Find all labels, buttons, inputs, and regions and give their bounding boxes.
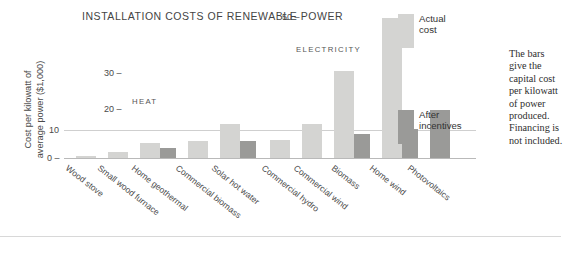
- y-tick-right-50-dash: –: [292, 12, 300, 22]
- legend-swatch-actual-cost: [398, 14, 414, 48]
- x-label-photovoltaics: Photovoltaics: [406, 163, 452, 202]
- x-label-home-wind: Home wind: [368, 163, 408, 197]
- x-label-commercial-hydro: Commercial hydro: [260, 163, 321, 214]
- bar-solar-hot-water-actual: [220, 124, 240, 158]
- legend-label-actual-cost-line1: Actual: [419, 13, 467, 24]
- y-tick-right-20-value: 20: [104, 104, 114, 114]
- legend-swatch-after-incentives: [398, 110, 414, 144]
- legend-label-after-incentives: After incentives: [419, 109, 467, 132]
- y-tick-left-0-dash: –: [52, 153, 59, 163]
- section-label-heat: HEAT: [132, 97, 157, 106]
- y-tick-right-50: 50 –: [282, 12, 300, 22]
- bottom-divider: [0, 236, 561, 237]
- y-axis-label-line1: Cost per kilowatt of: [23, 56, 35, 164]
- y-tick-right-50-value: 50: [282, 12, 292, 22]
- y-tick-right-20: 20 –: [104, 104, 122, 114]
- bar-solar-hot-water-after: [240, 141, 256, 158]
- y-tick-left-10-value: 10: [49, 125, 59, 135]
- bar-small-wood-furnace-actual: [108, 152, 128, 158]
- y-tick-left-10: 10: [49, 125, 59, 135]
- legend-label-actual-cost: Actual cost: [419, 13, 467, 36]
- bar-biomass-after: [354, 134, 370, 158]
- x-label-biomass: Biomass: [330, 163, 362, 191]
- bar-wood-stove-actual: [76, 156, 96, 158]
- axis-baseline: [64, 158, 476, 159]
- y-tick-right-30: 30 –: [104, 68, 122, 78]
- y-tick-left-0: 0 –: [47, 153, 59, 163]
- y-tick-right-30-value: 30: [104, 68, 114, 78]
- section-label-electricity: ELECTRICITY: [296, 45, 361, 54]
- bar-commercial-wind-actual: [302, 124, 322, 158]
- y-tick-right-30-dash: –: [114, 68, 122, 78]
- y-axis-label: Cost per kilowatt of average power ($1,0…: [23, 56, 46, 164]
- bar-commercial-hydro-actual: [270, 140, 290, 158]
- y-axis-label-line2: average power ($1,000): [34, 56, 46, 164]
- bar-commercial-biomass-actual: [188, 141, 208, 158]
- plot-area: 10 0 – 50 – 30 – 20 – HEAT ELECTRICITY: [64, 18, 476, 158]
- bar-home-geothermal-after: [160, 148, 176, 158]
- y-tick-right-20-dash: –: [114, 104, 122, 114]
- legend-label-after-incentives-line1: After: [419, 109, 467, 120]
- chart-caption: The bars give the capital cost per kilow…: [509, 48, 563, 147]
- bar-biomass-actual: [334, 71, 354, 158]
- legend-label-after-incentives-line2: incentives: [419, 120, 467, 131]
- bar-home-geothermal-actual: [140, 143, 160, 158]
- legend-label-actual-cost-line2: cost: [419, 24, 467, 35]
